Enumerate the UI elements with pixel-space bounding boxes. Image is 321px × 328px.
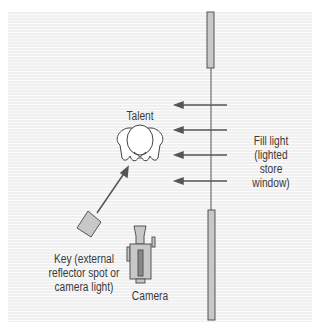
key-light-arrow xyxy=(97,167,128,213)
fill-light-label: Fill light (lighted store window) xyxy=(241,134,301,190)
key-light-label: Key (external reflector spot or camera l… xyxy=(33,252,135,294)
key-light-icon xyxy=(77,211,101,237)
window-pane-bottom xyxy=(208,210,215,320)
talent-label: Talent xyxy=(121,109,158,123)
talent-figure-icon xyxy=(117,125,163,161)
fill-light-arrows xyxy=(175,102,227,184)
window-pane-top xyxy=(207,12,214,68)
camera-label: Camera xyxy=(125,289,176,303)
